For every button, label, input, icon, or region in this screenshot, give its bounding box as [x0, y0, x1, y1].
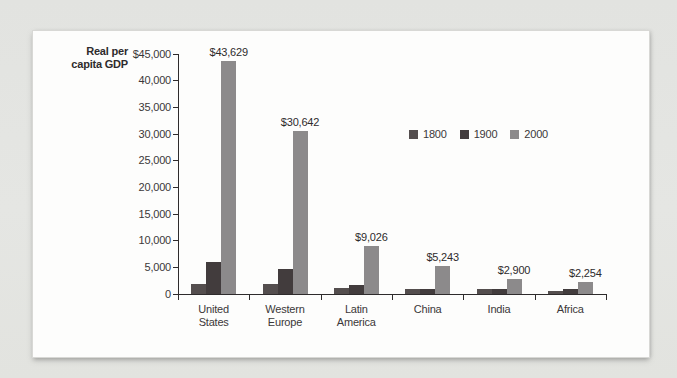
legend-item-1800: 1800	[409, 128, 447, 140]
legend-swatch-2000	[510, 130, 519, 139]
value-label-united-states: $43,629	[209, 46, 247, 58]
legend-item-1900: 1900	[460, 128, 498, 140]
category-label-latin-america: LatinAmerica	[321, 303, 392, 328]
bar-1900-india	[492, 289, 507, 294]
x-tick	[178, 295, 179, 300]
value-label-china: $5,243	[426, 251, 458, 263]
bar-1900-latin-america	[349, 285, 364, 294]
y-tick-label: 10,000	[33, 234, 171, 246]
y-tick-label: 35,000	[33, 101, 171, 113]
category-label-china: China	[392, 303, 463, 316]
bar-2000-western-europe	[293, 131, 308, 294]
category-label-united-states: UnitedStates	[178, 303, 249, 328]
x-tick	[463, 295, 464, 300]
y-tick	[173, 107, 178, 108]
y-tick-label: $45,000	[33, 48, 171, 60]
bar-1900-africa	[563, 289, 578, 294]
x-tick	[321, 295, 322, 300]
bar-2000-africa	[578, 282, 593, 294]
bar-1900-china	[420, 289, 435, 294]
legend: 180019002000	[409, 128, 561, 140]
bar-2000-united-states	[221, 61, 236, 294]
y-tick	[173, 54, 178, 55]
y-tick-label: 5,000	[33, 261, 171, 273]
y-tick-label: 20,000	[33, 181, 171, 193]
y-tick-label: 0	[33, 288, 171, 300]
y-tick	[173, 80, 178, 81]
y-tick	[173, 160, 178, 161]
category-label-india: India	[463, 303, 534, 316]
value-label-india: $2,900	[498, 264, 530, 276]
category-label-western-europe: WesternEurope	[249, 303, 320, 328]
bar-2000-latin-america	[364, 246, 379, 294]
bar-1900-united-states	[206, 262, 221, 294]
x-tick	[535, 295, 536, 300]
y-tick	[173, 134, 178, 135]
legend-label-1900: 1900	[474, 128, 498, 140]
y-tick-label: 30,000	[33, 128, 171, 140]
x-tick	[606, 295, 607, 300]
y-tick-label: 25,000	[33, 154, 171, 166]
x-tick	[392, 295, 393, 300]
bar-1800-china	[405, 289, 420, 294]
y-tick-label: 15,000	[33, 208, 171, 220]
value-label-latin-america: $9,026	[355, 231, 387, 243]
y-tick	[173, 187, 178, 188]
bar-1800-india	[477, 289, 492, 294]
legend-item-2000: 2000	[510, 128, 548, 140]
y-tick	[173, 214, 178, 215]
legend-swatch-1900	[460, 130, 469, 139]
bar-1800-africa	[548, 291, 563, 294]
x-tick	[249, 295, 250, 300]
legend-swatch-1800	[409, 130, 418, 139]
chart-panel: Real per capita GDP 180019002000 $45,000…	[32, 30, 650, 358]
bar-2000-india	[507, 279, 522, 294]
legend-label-1800: 1800	[423, 128, 447, 140]
y-tick	[173, 240, 178, 241]
value-label-western-europe: $30,642	[281, 116, 319, 128]
bar-1900-western-europe	[278, 269, 293, 294]
bar-1800-latin-america	[334, 288, 349, 294]
legend-label-2000: 2000	[524, 128, 548, 140]
bar-1800-united-states	[191, 284, 206, 294]
y-tick	[173, 267, 178, 268]
y-axis-title-line2: capita GDP	[33, 58, 128, 71]
y-axis-line	[178, 54, 179, 295]
value-label-africa: $2,254	[569, 267, 601, 279]
category-label-africa: Africa	[535, 303, 606, 316]
bar-1800-western-europe	[263, 284, 278, 294]
y-tick-label: 40,000	[33, 74, 171, 86]
bar-2000-china	[435, 266, 450, 294]
